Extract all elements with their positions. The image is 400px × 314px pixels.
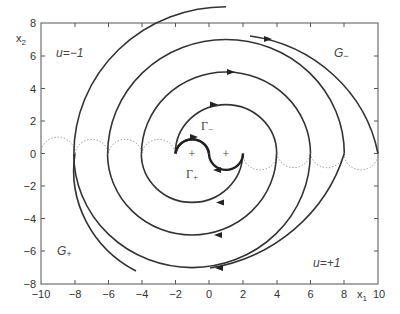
trajectory-upper-outer <box>250 36 378 154</box>
gamma-switching-arcs <box>176 139 244 170</box>
gamma-plus-label: Γ+ <box>186 167 198 182</box>
svg-text:−2: −2 <box>23 180 36 192</box>
svg-text:x2: x2 <box>16 32 27 47</box>
trajectory-lower-r5 <box>108 154 277 235</box>
arrow-icon <box>216 200 224 206</box>
arrow-icon <box>264 36 272 42</box>
plus-marker-right: + <box>223 147 230 161</box>
gamma-minus-label: Γ− <box>201 119 213 134</box>
svg-text:6: 6 <box>307 288 313 300</box>
trajectory-lower-outer <box>74 154 136 272</box>
annotations: u=−1 G− Γ− Γ+ G+ u=+1 <box>56 46 349 270</box>
direction-arrows <box>190 36 272 271</box>
svg-text:2: 2 <box>240 288 246 300</box>
g-minus-label: G− <box>334 46 349 61</box>
arrow-icon <box>227 69 235 75</box>
svg-text:−4: −4 <box>23 213 36 225</box>
arrow-icon <box>214 232 222 238</box>
svg-text:0: 0 <box>30 148 36 160</box>
svg-text:4: 4 <box>30 83 36 95</box>
u-minus-label: u=−1 <box>56 46 83 60</box>
u-plus-label: u=+1 <box>313 256 340 270</box>
svg-text:4: 4 <box>274 288 280 300</box>
trajectory-lower-r8 <box>210 154 344 269</box>
svg-text:10: 10 <box>373 288 385 300</box>
svg-text:−8: −8 <box>69 288 82 300</box>
x-tick-labels: −10 −8 −6 −4 −2 0 2 4 6 8 10 <box>32 288 385 300</box>
y-tick-labels: 8 6 4 2 0 −2 −4 −6 −8 <box>23 17 36 290</box>
y-axis-label: x2 <box>16 32 27 47</box>
x-axis-label: x1 <box>357 288 368 303</box>
plus-marker-left: + <box>189 147 196 161</box>
svg-text:2: 2 <box>30 115 36 127</box>
svg-text:8: 8 <box>341 288 347 300</box>
g-plus-label: G+ <box>57 244 72 259</box>
svg-text:6: 6 <box>30 50 36 62</box>
svg-text:x1: x1 <box>357 288 368 303</box>
phase-portrait-chart: −10 −8 −6 −4 −2 0 2 4 6 8 10 x1 8 6 4 2 … <box>0 0 400 314</box>
svg-text:0: 0 <box>206 288 212 300</box>
svg-text:8: 8 <box>30 17 36 29</box>
svg-text:−6: −6 <box>102 288 115 300</box>
svg-text:−8: −8 <box>23 278 36 290</box>
svg-text:−6: −6 <box>23 245 36 257</box>
